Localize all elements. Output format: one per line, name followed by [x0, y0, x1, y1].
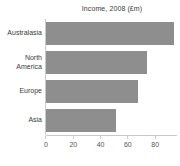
tick-label: 80: [151, 141, 159, 148]
tick-label: 0: [44, 141, 48, 148]
bar-track: [45, 48, 180, 77]
tick-label: 20: [69, 141, 77, 148]
bar-north-america: [46, 51, 147, 74]
category-label: Europe: [0, 87, 45, 95]
x-tick: 60: [124, 136, 132, 148]
chart-rows: AustralasiaNorth AmericaEuropeAsia: [0, 19, 180, 135]
chart-row: Australasia: [0, 19, 180, 48]
bar-asia: [46, 109, 116, 132]
tick-mark: [127, 136, 128, 139]
category-label: North America: [0, 54, 45, 71]
x-tick: 20: [69, 136, 77, 148]
tick-mark: [100, 136, 101, 139]
category-label: Australasia: [0, 29, 45, 37]
tick-mark: [73, 136, 74, 139]
bar-track: [45, 77, 180, 106]
bar-track: [45, 106, 180, 135]
category-label: Asia: [0, 116, 45, 124]
x-tick: 40: [97, 136, 105, 148]
tick-label: 60: [124, 141, 132, 148]
chart-row: Europe: [0, 77, 180, 106]
tick-mark: [155, 136, 156, 139]
tick-label: 40: [97, 141, 105, 148]
x-tick: 0: [44, 136, 48, 148]
bar-chart: AustralasiaNorth AmericaEuropeAsia 02040…: [0, 19, 180, 152]
chart-row: North America: [0, 48, 180, 77]
bar-chart-figure: Income, 2008 (£m) AustralasiaNorth Ameri…: [0, 0, 180, 166]
chart-title: Income, 2008 (£m): [46, 0, 178, 12]
x-tick: 80: [151, 136, 159, 148]
tick-mark: [46, 136, 47, 139]
chart-row: Asia: [0, 106, 180, 135]
x-axis: 020406080: [46, 135, 177, 152]
bar-track: [45, 19, 180, 48]
bar-australasia: [46, 22, 174, 45]
bar-europe: [46, 80, 138, 103]
